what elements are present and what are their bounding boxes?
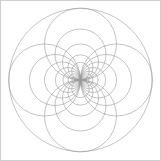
figure-container [0, 0, 161, 161]
coaxal-circles-figure [0, 0, 161, 161]
